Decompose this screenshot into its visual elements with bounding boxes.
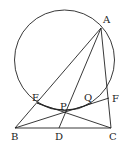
circle — [15, 10, 115, 110]
geometry-diagram: A B C D E P Q F — [0, 0, 127, 149]
segment-AB — [15, 28, 101, 128]
label-E: E — [32, 92, 39, 103]
label-Q: Q — [84, 92, 92, 103]
label-B: B — [11, 131, 18, 142]
label-C: C — [109, 131, 117, 142]
label-D: D — [55, 131, 63, 142]
segment-EC — [37, 103, 111, 128]
label-F: F — [112, 93, 119, 104]
label-A: A — [102, 14, 111, 25]
segment-AC — [101, 28, 111, 128]
label-P: P — [60, 101, 67, 112]
